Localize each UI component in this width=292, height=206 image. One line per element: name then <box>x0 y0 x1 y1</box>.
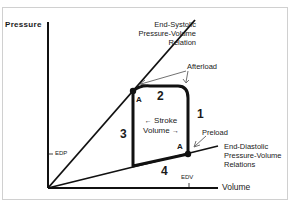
afterload-arrow-2 <box>186 71 188 82</box>
arrow-right-icon: → <box>172 127 179 134</box>
point-a-bottom-label: A <box>177 142 183 151</box>
point-a-top-label: A <box>136 95 142 104</box>
preload-label: Preload <box>202 128 228 137</box>
espvr-label-line1: End-Systolic <box>100 20 196 29</box>
phase-2-label: 2 <box>157 90 164 102</box>
edpvr-label-line3: Relations <box>224 160 282 169</box>
stroke-volume-text2: Volume <box>143 126 170 135</box>
arrow-left-icon: ← <box>145 117 152 124</box>
edpvr-label-line1: End-Diastolic <box>224 142 282 151</box>
edpvr-label: End-Diastolic Pressure-Volume Relations <box>224 142 282 169</box>
stroke-volume-line2: Volume → <box>136 126 186 136</box>
phase-1-label: 1 <box>197 108 204 120</box>
espvr-label-line2: Pressure-Volume <box>80 29 196 38</box>
stroke-volume-text1: Stroke <box>154 116 177 125</box>
phase-3-label: 3 <box>120 128 127 140</box>
edv-label: EDV <box>181 174 193 181</box>
y-axis-label: Pressure <box>5 20 42 29</box>
edp-label: EDP <box>55 150 67 157</box>
preload-arrow <box>195 136 206 146</box>
afterload-label: Afterload <box>187 62 217 71</box>
espvr-label-line3: Relation <box>100 38 196 47</box>
edpvr-label-line2: Pressure-Volume <box>224 151 282 160</box>
espvr-label: End-Systolic Pressure-Volume Relation <box>100 20 196 47</box>
stroke-volume-line1: ← Stroke <box>136 116 186 126</box>
point-a-bottom <box>185 151 191 157</box>
x-axis-label: Volume <box>222 183 250 192</box>
stroke-volume-label: ← Stroke Volume → <box>136 116 186 136</box>
point-a-top <box>130 88 136 94</box>
phase-4-label: 4 <box>161 165 168 177</box>
